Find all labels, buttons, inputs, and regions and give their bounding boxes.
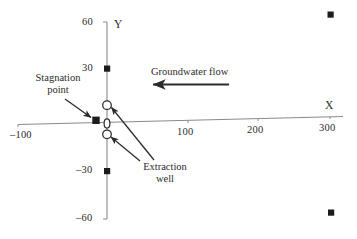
annotation-stagnation-point-line2: point <box>22 84 94 96</box>
y-axis-title: Y <box>114 18 122 30</box>
leader-extraction-well-lower <box>111 137 140 161</box>
data-markers-group <box>92 12 334 216</box>
figure-canvas: 60 30 –30 –60 Y –100 100 200 300 X Stagn… <box>0 0 357 239</box>
marker-stagnation-point <box>92 117 99 124</box>
annotation-groundwater-flow: Groundwater flow <box>151 66 228 77</box>
marker-extraction-well-origin <box>104 119 110 128</box>
marker-square-y-neg30 <box>104 168 110 174</box>
x-axis-title: X <box>325 99 333 111</box>
y-tick-label-60: 60 <box>82 16 93 27</box>
annotation-stagnation-point: Stagnation point <box>22 72 94 97</box>
marker-square-top-right <box>328 12 334 18</box>
x-tick-label-200: 200 <box>247 124 263 135</box>
marker-square-bottom-right <box>328 210 334 216</box>
marker-extraction-well-upper <box>103 101 112 110</box>
y-tick-label-neg60: –60 <box>76 212 92 223</box>
annotation-stagnation-point-line1: Stagnation <box>22 72 94 84</box>
x-tick-label-300: 300 <box>319 122 335 133</box>
x-tick-label-neg100: –100 <box>10 129 32 140</box>
y-tick-label-neg30: –30 <box>76 164 92 175</box>
plot-area <box>0 0 357 239</box>
x-tick-label-100: 100 <box>177 126 193 137</box>
axes-group <box>18 22 343 219</box>
annotation-extraction-well: Extraction well <box>134 161 196 186</box>
marker-square-y30 <box>104 66 110 72</box>
leader-stagnation-point <box>65 99 91 118</box>
marker-extraction-well-lower <box>103 130 112 139</box>
x-axis-line <box>18 117 343 125</box>
annotation-extraction-well-line2: well <box>134 173 196 185</box>
leader-extraction-well-upper <box>112 108 155 161</box>
annotation-extraction-well-line1: Extraction <box>134 161 196 173</box>
